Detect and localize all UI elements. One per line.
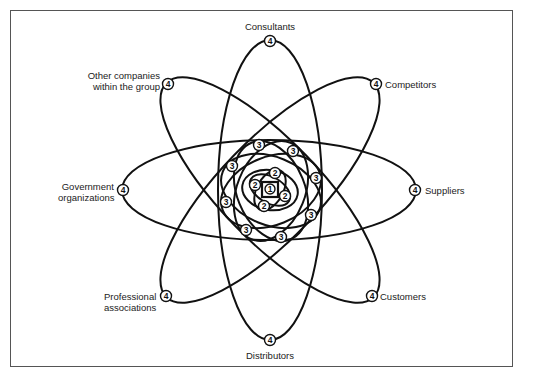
marker-professional: 4 (161, 291, 172, 302)
svg-text:4: 4 (370, 291, 375, 301)
label-professional-associations: Professional associations (104, 291, 156, 313)
svg-text:4: 4 (413, 185, 418, 195)
svg-text:4: 4 (374, 79, 379, 89)
label-line: within the group (70, 81, 160, 92)
marker-competitors: 4 (371, 79, 382, 90)
svg-text:2: 2 (273, 168, 278, 178)
label-customers: Customers (380, 291, 426, 302)
svg-text:3: 3 (230, 161, 235, 171)
svg-text:4: 4 (268, 36, 273, 46)
svg-text:3: 3 (309, 210, 314, 220)
marker-level2: 2 (280, 191, 291, 202)
marker-level3: 3 (306, 210, 317, 221)
marker-level3: 3 (276, 232, 287, 243)
marker-suppliers: 4 (410, 185, 421, 196)
label-competitors: Competitors (385, 79, 436, 90)
svg-text:4: 4 (166, 79, 171, 89)
svg-text:3: 3 (257, 140, 262, 150)
marker-level3: 3 (311, 173, 322, 184)
svg-text:1: 1 (268, 184, 273, 194)
label-line: Government (58, 181, 114, 192)
label-consultants: Consultants (245, 21, 295, 32)
marker-consultants: 4 (265, 36, 276, 47)
svg-text:2: 2 (253, 180, 258, 190)
label-government-organizations: Government organizations (58, 181, 114, 203)
label-line: Other companies (70, 70, 160, 81)
label-line: organizations (58, 192, 114, 203)
marker-government: 4 (118, 185, 129, 196)
svg-text:3: 3 (244, 225, 249, 235)
svg-text:3: 3 (314, 173, 319, 183)
svg-text:3: 3 (279, 232, 284, 242)
marker-level3: 3 (227, 161, 238, 172)
marker-level3: 3 (288, 146, 299, 157)
marker-customers: 4 (367, 291, 378, 302)
marker-level2: 2 (250, 180, 261, 191)
marker-level3: 3 (241, 225, 252, 236)
marker-center: 1 (265, 184, 275, 194)
svg-text:4: 4 (268, 335, 273, 345)
marker-other-companies: 4 (163, 79, 174, 90)
label-suppliers: Suppliers (425, 185, 465, 196)
label-line: associations (104, 302, 156, 313)
marker-level2: 2 (270, 168, 281, 179)
label-line: Professional (104, 291, 156, 302)
marker-level3: 3 (254, 140, 265, 151)
label-distributors: Distributors (246, 350, 294, 361)
svg-text:3: 3 (224, 197, 229, 207)
marker-distributors: 4 (265, 335, 276, 346)
svg-text:2: 2 (283, 191, 288, 201)
svg-text:2: 2 (262, 201, 267, 211)
marker-level2: 2 (259, 201, 270, 212)
label-other-companies: Other companies within the group (70, 70, 160, 92)
svg-text:4: 4 (164, 291, 169, 301)
svg-text:4: 4 (121, 185, 126, 195)
marker-level3: 3 (221, 197, 232, 208)
svg-text:3: 3 (291, 146, 296, 156)
